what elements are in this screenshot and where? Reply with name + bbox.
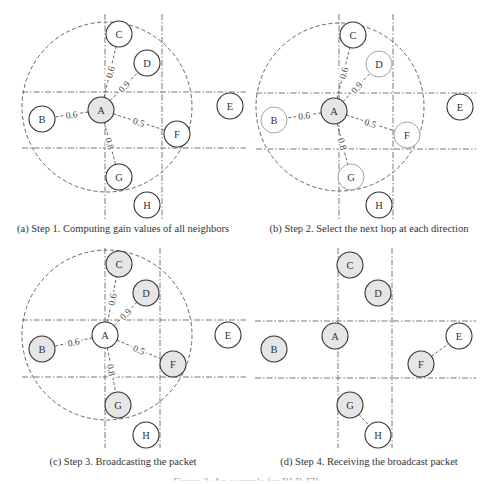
gain-value-label: 0.6: [65, 109, 78, 121]
node-label: F: [404, 130, 410, 141]
node-D: D: [133, 280, 159, 306]
node-G: G: [106, 164, 132, 190]
panel-d: ABCDEFGH: [255, 248, 476, 448]
node-G: G: [105, 392, 131, 418]
node-E: E: [215, 322, 241, 348]
node-label: D: [143, 58, 151, 69]
node-label: G: [114, 400, 122, 411]
node-label: A: [101, 330, 109, 341]
node-label: H: [142, 430, 150, 441]
gain-value-label: 0.6: [297, 110, 310, 122]
node-C: C: [106, 251, 132, 277]
panel-caption-d: (d) Step 4. Receiving the broadcast pack…: [280, 456, 458, 467]
node-label: A: [330, 106, 338, 117]
node-A: A: [88, 97, 114, 123]
node-label: G: [347, 172, 355, 183]
node-label: D: [142, 288, 150, 299]
node-label: E: [457, 102, 463, 113]
node-label: G: [346, 400, 354, 411]
node-label: C: [346, 260, 353, 271]
broadcast-diagram: 0.60.60.90.50.8ABCDEFGH0.60.60.90.50.8AB…: [0, 0, 492, 484]
node-label: A: [331, 331, 339, 342]
node-H: H: [134, 192, 160, 218]
gain-value-label: 0.6: [67, 336, 81, 348]
node-B: B: [29, 106, 55, 132]
node-label: C: [349, 30, 356, 41]
node-label: C: [115, 259, 122, 270]
node-C: C: [337, 252, 363, 278]
link-G-H: [359, 415, 369, 426]
node-D: D: [366, 51, 392, 77]
node-F: F: [160, 351, 186, 377]
panel-caption-a: (a) Step 1. Computing gain values of all…: [17, 223, 229, 234]
node-label: H: [375, 200, 383, 211]
node-B: B: [29, 336, 55, 362]
node-B: B: [261, 336, 287, 362]
node-E: E: [217, 93, 243, 119]
node-label: D: [375, 59, 383, 70]
node-C: C: [106, 21, 132, 47]
node-F: F: [408, 351, 434, 377]
node-A: A: [92, 322, 118, 348]
node-label: B: [38, 114, 45, 125]
node-label: D: [374, 288, 382, 299]
gain-value-label: 0.6: [106, 293, 118, 307]
node-H: H: [133, 422, 159, 448]
node-label: B: [270, 344, 277, 355]
node-H: H: [365, 422, 391, 448]
node-E: E: [447, 94, 473, 120]
node-H: H: [366, 192, 392, 218]
node-B: B: [261, 107, 287, 133]
node-G: G: [337, 392, 363, 418]
node-A: A: [321, 98, 347, 124]
direction-grid: [255, 248, 476, 448]
node-D: D: [365, 280, 391, 306]
node-label: H: [143, 200, 151, 211]
node-F: F: [164, 121, 190, 147]
node-G: G: [338, 164, 364, 190]
panel-caption-c: (c) Step 3. Broadcasting the packet: [50, 456, 197, 467]
node-label: C: [115, 29, 122, 40]
panel-a: 0.60.60.90.50.8ABCDEFGH: [22, 14, 246, 220]
node-label: F: [170, 359, 176, 370]
panel-caption-b: (b) Step 2. Select the next hop at each …: [270, 223, 469, 234]
node-label: F: [174, 129, 180, 140]
node-label: E: [456, 331, 462, 342]
node-label: F: [418, 359, 424, 370]
node-C: C: [340, 22, 366, 48]
node-label: E: [225, 330, 231, 341]
node-A: A: [322, 323, 348, 349]
node-label: G: [115, 172, 123, 183]
node-label: B: [270, 115, 277, 126]
node-D: D: [134, 50, 160, 76]
node-label: E: [227, 101, 233, 112]
node-label: H: [374, 430, 382, 441]
panel-b: 0.60.60.90.50.8ABCDEFGH: [256, 14, 476, 220]
node-F: F: [394, 122, 420, 148]
link-F-E: [431, 344, 448, 357]
node-label: B: [38, 344, 45, 355]
panel-c: 0.60.60.90.50.8ABCDEFGH: [22, 248, 246, 448]
node-E: E: [446, 323, 472, 349]
gain-value-label: 0.8: [105, 363, 117, 377]
node-label: A: [97, 105, 105, 116]
